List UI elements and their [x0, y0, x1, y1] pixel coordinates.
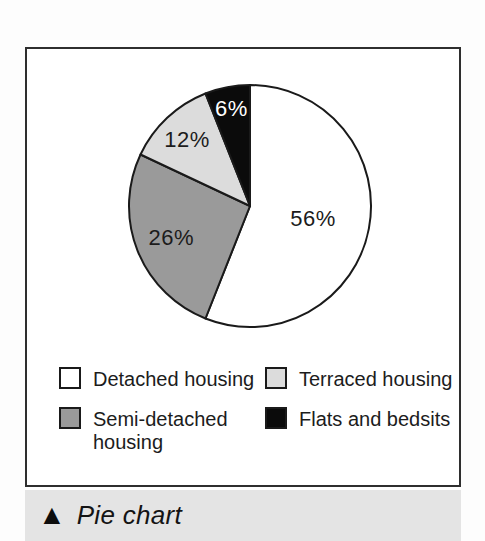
pie-chart: 56%26%12%6%: [126, 82, 374, 330]
legend-item-semi-detached: Semi-detached housing: [59, 407, 265, 453]
scanned-figure-page: 56%26%12%6% Detached housing Terraced ho…: [0, 0, 485, 541]
triangle-up-icon: ▲: [38, 501, 66, 529]
caption-bar: ▲ Pie chart: [25, 490, 461, 541]
caption-text: Pie chart: [77, 500, 182, 531]
legend-item-flats: Flats and bedsits: [265, 407, 455, 453]
slice-data-label: 56%: [290, 206, 336, 231]
chart-box: 56%26%12%6% Detached housing Terraced ho…: [25, 47, 461, 487]
legend-label: Detached housing: [93, 367, 254, 390]
slice-data-label: 6%: [215, 96, 248, 121]
legend: Detached housing Terraced housing Semi-d…: [59, 367, 455, 453]
flats-swatch: [265, 407, 287, 429]
slice-data-label: 12%: [164, 127, 210, 152]
legend-label: Terraced housing: [299, 367, 452, 390]
detached-swatch: [59, 367, 81, 389]
slice-data-label: 26%: [148, 225, 194, 250]
terraced-swatch: [265, 367, 287, 389]
legend-item-detached: Detached housing: [59, 367, 265, 390]
legend-label: Semi-detached housing: [93, 407, 243, 453]
legend-item-terraced: Terraced housing: [265, 367, 455, 390]
semi-detached-swatch: [59, 407, 81, 429]
legend-label: Flats and bedsits: [299, 407, 450, 430]
